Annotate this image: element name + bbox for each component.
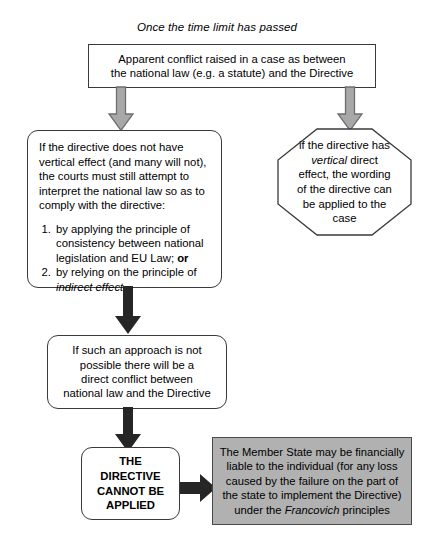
gray-arrow-to-vertical-effect-icon: [336, 86, 364, 132]
node-member-state-liability: The Member State may be financially liab…: [212, 437, 412, 525]
member-state-text: The Member State may be financially liab…: [219, 445, 405, 518]
apparent-conflict-line1: Apparent conflict raised in a case as be…: [118, 53, 345, 65]
direct-conflict-line4: national law and the Directive: [63, 387, 211, 399]
cannot-line2: DIRECTIVE: [100, 470, 160, 482]
member-state-italic: Francovich: [285, 504, 340, 516]
vertical-effect-text: if the directive has vertical direct eff…: [295, 138, 395, 226]
diagram-caption: Once the time limit has passed: [0, 20, 434, 34]
node-interpret-national-law: If the directive does not have vertical …: [27, 130, 222, 288]
vertical-effect-italic: vertical: [311, 154, 347, 166]
direct-conflict-text: If such an approach is not possible ther…: [63, 343, 211, 401]
cannot-line3: CANNOT BE: [97, 485, 164, 497]
cannot-be-applied-text: THE DIRECTIVE CANNOT BE APPLIED: [97, 454, 164, 512]
direct-conflict-line2: possible there will be a: [80, 359, 194, 371]
member-state-part2: principles: [339, 504, 389, 516]
vertical-effect-part1: if the directive has: [299, 139, 390, 151]
interpret-item-1-bold: or: [177, 252, 188, 264]
black-arrow-to-direct-conflict-icon: [113, 286, 143, 336]
node-direct-conflict: If such an approach is not possible ther…: [47, 335, 227, 409]
cannot-line4: APPLIED: [106, 499, 155, 511]
interpret-list: by applying the principle of consistency…: [39, 222, 212, 295]
node-vertical-direct-effect: if the directive has vertical direct eff…: [277, 128, 412, 236]
direct-conflict-line1: If such an approach is not: [72, 344, 201, 356]
interpret-paragraph: If the directive does not have vertical …: [39, 140, 212, 213]
node-apparent-conflict-text: Apparent conflict raised in a case as be…: [111, 52, 353, 81]
interpret-item-2-text: by relying on the principle of: [56, 266, 197, 278]
node-apparent-conflict: Apparent conflict raised in a case as be…: [88, 44, 376, 88]
cannot-line1: THE: [119, 455, 142, 467]
list-item: by applying the principle of consistency…: [54, 222, 212, 266]
direct-conflict-line3: direct conflict between: [81, 373, 193, 385]
apparent-conflict-line2: the national law (e.g. a statute) and th…: [111, 67, 353, 79]
flowchart-diagram: Once the time limit has passed Apparent …: [0, 0, 434, 546]
node-directive-cannot-be-applied: THE DIRECTIVE CANNOT BE APPLIED: [81, 447, 180, 520]
gray-arrow-to-interpret-icon: [107, 86, 135, 132]
